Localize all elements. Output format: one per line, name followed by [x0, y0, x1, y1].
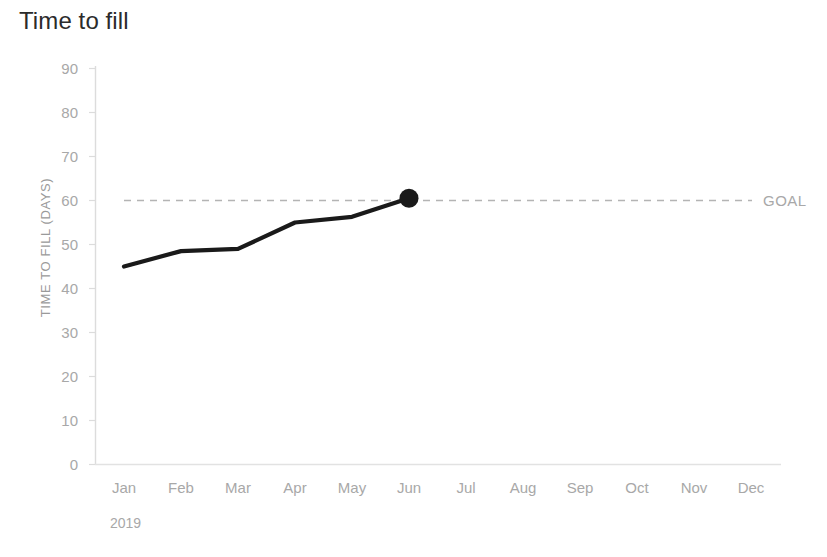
chart-container: Time to fill TIME TO FILL (DAYS) 90 80 7…: [0, 0, 827, 557]
y-axis-ticks: [89, 69, 95, 465]
plot-area: [0, 0, 827, 557]
series-end-marker: [400, 189, 419, 208]
series-line-time-to-fill: [124, 198, 409, 266]
